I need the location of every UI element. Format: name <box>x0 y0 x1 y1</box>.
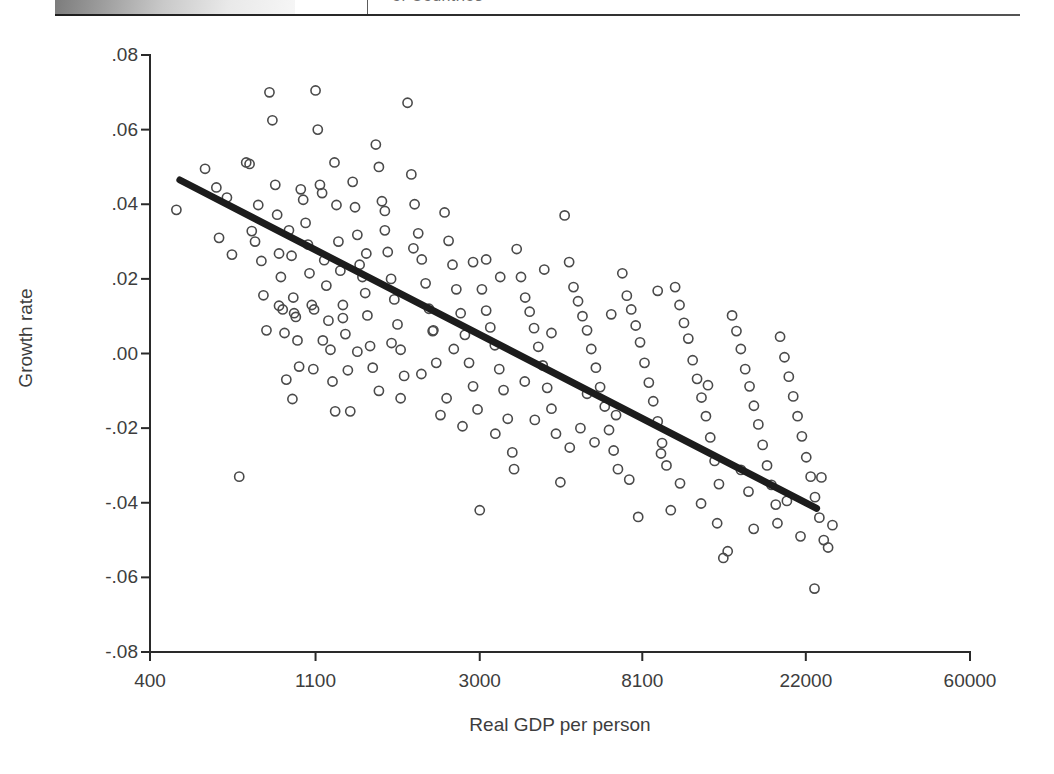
scatter-figure: .08.06.04.02.00-.02-.04-.06-.08 40011003… <box>0 22 1054 774</box>
page-header: of Countries <box>0 0 1054 22</box>
header-image-strip <box>55 0 295 14</box>
header-divider <box>367 0 368 15</box>
x-tick-label: 60000 <box>900 670 1040 692</box>
x-tick-label: 400 <box>80 670 220 692</box>
header-title: of Countries <box>392 0 483 5</box>
x-tick-label: 8100 <box>572 670 712 692</box>
header-rule <box>55 14 1020 16</box>
x-tick-label: 3000 <box>410 670 550 692</box>
x-axis-title: Real GDP per person <box>150 714 970 736</box>
x-tick-label: 1100 <box>246 670 386 692</box>
x-axis-tick-labels: 4001100300081002200060000 <box>0 22 1054 774</box>
x-tick-label: 22000 <box>736 670 876 692</box>
y-axis-title: Growth rate <box>15 248 37 428</box>
